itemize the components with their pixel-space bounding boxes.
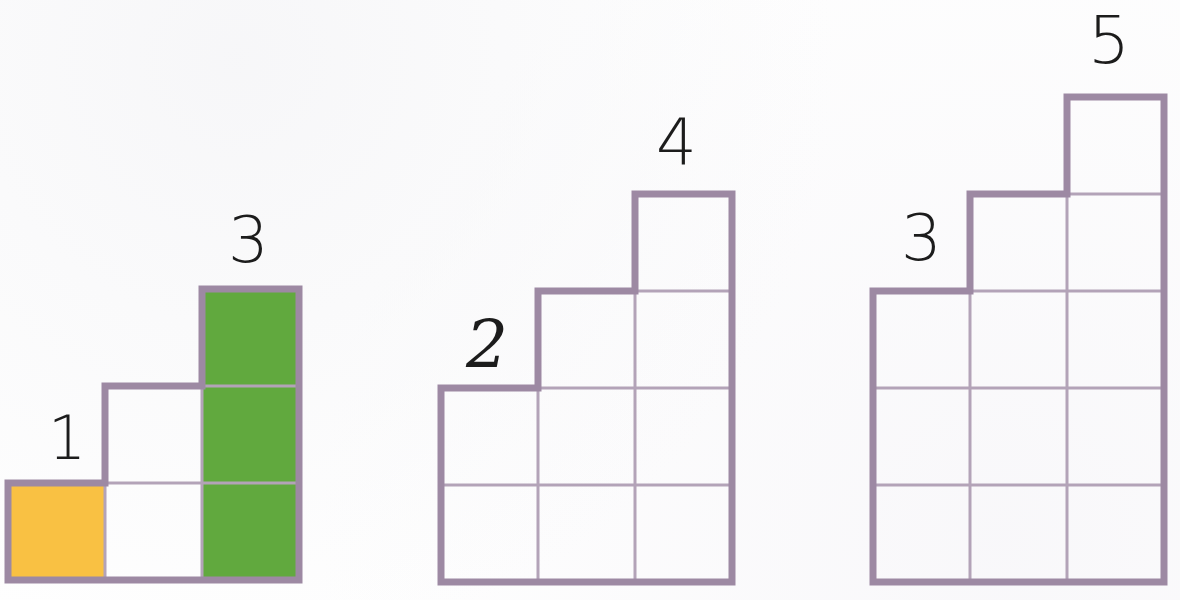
staircase-figure-2 xyxy=(435,188,738,588)
column-count-label: 2 xyxy=(466,312,508,378)
column-count-label: 4 xyxy=(656,110,697,174)
column-count-label: 3 xyxy=(228,208,269,272)
green-cell xyxy=(202,483,299,580)
grid-drawing xyxy=(435,188,738,588)
staircase-outline xyxy=(873,97,1164,582)
green-cell xyxy=(202,386,299,483)
column-count-label: 3 xyxy=(901,206,942,270)
column-count-label: 1 xyxy=(48,408,86,468)
orange-cell xyxy=(8,483,105,580)
column-count-label: 5 xyxy=(1088,8,1130,74)
green-cell xyxy=(202,289,299,386)
worksheet-canvas: 132435 xyxy=(0,0,1180,600)
staircase-figure-3 xyxy=(867,91,1170,588)
grid-drawing xyxy=(867,91,1170,588)
